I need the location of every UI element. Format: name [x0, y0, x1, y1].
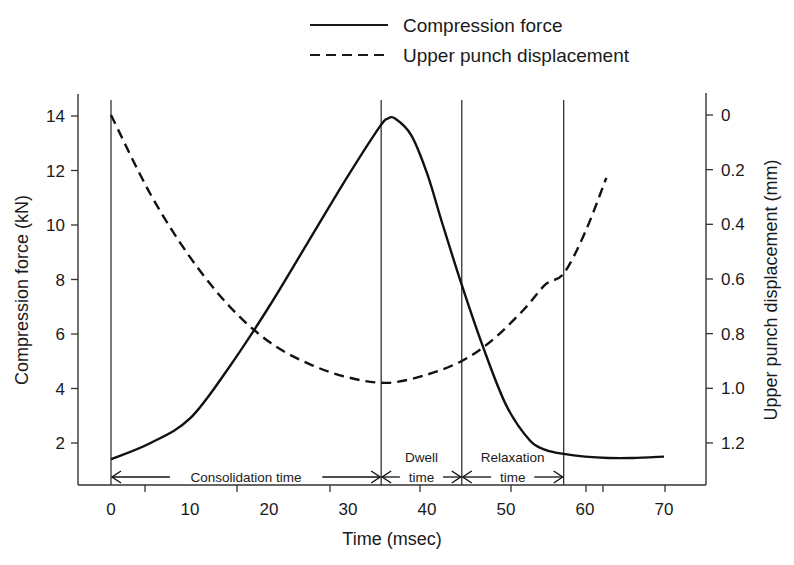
axes-frame — [78, 93, 706, 485]
phase-label: time — [500, 470, 526, 485]
left-tick-label: 10 — [46, 216, 65, 235]
right-tick-label: 0.4 — [721, 215, 745, 234]
left-tick-label: 2 — [56, 434, 65, 453]
bottom-tick-label: 50 — [497, 500, 516, 519]
left-axis-ticks: 2468101214 — [46, 107, 78, 453]
right-tick-label: 0.8 — [721, 325, 745, 344]
bottom-axis-ticks: 010203040506070 — [106, 485, 673, 519]
y-axis-title-right: Upper punch displacement (mm) — [761, 159, 781, 420]
phase-label: time — [409, 470, 435, 485]
y-axis-title-left: Compression force (kN) — [12, 195, 32, 385]
compression-force-line — [111, 117, 664, 459]
legend-label-upper-punch-displacement: Upper punch displacement — [403, 45, 630, 66]
left-tick-label: 8 — [56, 271, 65, 290]
phase-label: Relaxation — [481, 450, 545, 465]
legend: Compression force Upper punch displaceme… — [310, 15, 630, 66]
right-tick-label: 1.0 — [721, 379, 745, 398]
bottom-tick-label: 10 — [181, 500, 200, 519]
bottom-tick-label: 20 — [260, 500, 279, 519]
bottom-tick-label: 0 — [106, 500, 115, 519]
bottom-tick-label: 60 — [576, 500, 595, 519]
left-tick-label: 12 — [46, 162, 65, 181]
left-tick-label: 6 — [56, 325, 65, 344]
right-tick-label: 0.6 — [721, 270, 745, 289]
upper-punch-displacement-line — [111, 115, 606, 383]
phase-label: Consolidation time — [191, 470, 302, 485]
phase-label: Dwell — [405, 450, 438, 465]
right-tick-label: 0 — [721, 106, 730, 125]
legend-label-compression-force: Compression force — [403, 15, 562, 36]
phase-annotations: Consolidation timeDwelltimeRelaxationtim… — [112, 450, 563, 485]
right-tick-label: 1.2 — [721, 434, 745, 453]
left-tick-label: 14 — [46, 107, 65, 126]
right-tick-label: 0.2 — [721, 161, 745, 180]
right-axis-ticks: 00.20.40.60.81.01.2 — [706, 106, 745, 453]
bottom-tick-label: 30 — [339, 500, 358, 519]
chart-canvas: Compression force Upper punch displaceme… — [0, 0, 794, 565]
bottom-tick-label: 40 — [418, 500, 437, 519]
x-axis-title: Time (msec) — [342, 529, 441, 549]
bottom-tick-label: 70 — [655, 500, 674, 519]
left-tick-label: 4 — [56, 380, 65, 399]
